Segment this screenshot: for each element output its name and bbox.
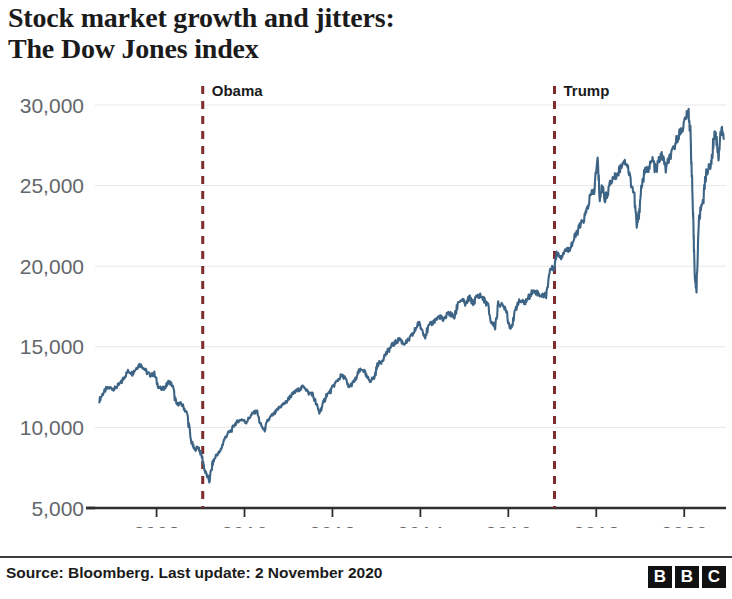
x-tick-label: 2018 xyxy=(573,522,620,528)
y-tick-label: 15,000 xyxy=(20,335,84,358)
y-tick-label: 20,000 xyxy=(20,255,84,278)
bbc-logo: B B C xyxy=(648,566,726,588)
bbc-logo-letter-1: B xyxy=(648,566,672,588)
chart-svg: 30,00025,00020,00015,00010,0005,000 2008… xyxy=(0,78,732,528)
event-label-trump: Trump xyxy=(564,82,610,99)
y-axis-tick-labels: 30,00025,00020,00015,00010,0005,000 xyxy=(20,94,84,520)
series-line xyxy=(99,109,723,483)
y-tick-label: 10,000 xyxy=(20,416,84,439)
title-line-2: The Dow Jones index xyxy=(8,33,628,64)
y-tick-label: 5,000 xyxy=(31,497,84,520)
bbc-logo-letter-3: C xyxy=(702,566,726,588)
gridlines xyxy=(95,105,726,427)
bbc-logo-letter-2: B xyxy=(675,566,699,588)
y-tick-label: 30,000 xyxy=(20,94,84,117)
x-axis-tick-labels: 2008201020122014201620182020 xyxy=(133,508,707,528)
event-label-obama: Obama xyxy=(212,82,264,99)
x-tick-label: 2012 xyxy=(309,522,356,528)
x-tick-label: 2020 xyxy=(661,522,708,528)
chart-page: Stock market growth and jitters: The Dow… xyxy=(0,0,732,599)
title-line-1: Stock market growth and jitters: xyxy=(8,2,628,33)
footer-divider xyxy=(0,556,732,558)
page-title: Stock market growth and jitters: The Dow… xyxy=(8,2,628,64)
line-chart: 30,00025,00020,00015,00010,0005,000 2008… xyxy=(0,78,732,528)
x-tick-label: 2008 xyxy=(133,522,180,528)
event-marker-lines xyxy=(203,86,555,508)
event-marker-labels: ObamaTrump xyxy=(212,82,610,99)
data-series xyxy=(99,109,723,483)
y-tick-label: 25,000 xyxy=(20,174,84,197)
x-tick-label: 2014 xyxy=(397,522,444,528)
x-tick-label: 2016 xyxy=(485,522,532,528)
x-tick-label: 2010 xyxy=(221,522,268,528)
source-note: Source: Bloomberg. Last update: 2 Novemb… xyxy=(6,564,382,582)
